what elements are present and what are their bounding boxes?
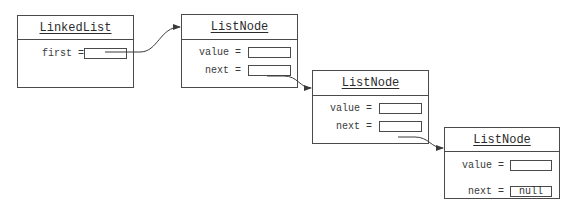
- field-box-first: [84, 48, 127, 59]
- field-label-value: value =: [194, 47, 241, 58]
- field-box-value: [379, 103, 422, 114]
- field-label-value: value =: [325, 103, 372, 114]
- object-title: ListNode: [211, 20, 269, 34]
- field-box-next: [248, 65, 291, 76]
- listnode-object-3: ListNode value = next = null: [444, 127, 560, 199]
- field-label-value: value =: [457, 160, 504, 171]
- listnode-header: ListNode: [313, 71, 428, 96]
- field-box-value: [248, 47, 291, 58]
- listnode-object-2: ListNode value = next =: [312, 70, 429, 144]
- object-title: ListNode: [473, 133, 531, 147]
- field-label-next: next =: [194, 65, 241, 76]
- listnode-object-1: ListNode value = next =: [181, 14, 298, 88]
- listnode-header: ListNode: [445, 128, 559, 152]
- linkedlist-object: LinkedList first =: [17, 15, 134, 88]
- field-box-next: [379, 121, 422, 132]
- listnode-header: ListNode: [182, 15, 297, 40]
- linkedlist-header: LinkedList: [18, 16, 133, 40]
- field-box-next-null: null: [510, 186, 552, 197]
- field-box-value: [510, 160, 552, 171]
- object-title: ListNode: [342, 76, 400, 90]
- field-label-next: next =: [457, 186, 504, 197]
- field-label-next: next =: [325, 121, 372, 132]
- field-label-first: first =: [34, 48, 84, 59]
- object-title: LinkedList: [39, 21, 111, 35]
